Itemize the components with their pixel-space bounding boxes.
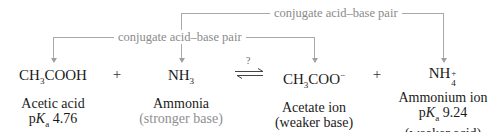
species-name: Acetic acid [12, 96, 94, 111]
arrow-down-icon [312, 58, 318, 63]
pka-k: K [426, 105, 435, 120]
species-role: (stronger base) [139, 111, 223, 126]
pka-k: K [36, 111, 45, 126]
species-acetate-ion: CH3COO− Acetate ion (weaker base) [275, 66, 353, 130]
species-name: Acetate ion [275, 100, 353, 115]
species-ammonia: NH3 Ammonia (stronger base) [139, 66, 223, 126]
plus-operator: + [373, 66, 381, 83]
formula-part: CH [19, 67, 40, 83]
top-bracket-right-drop [443, 13, 444, 60]
species-name: Ammonia [139, 96, 223, 111]
lower-bracket-label: conjugate acid–base pair [114, 30, 246, 44]
formula-nh3: NH3 [139, 66, 223, 90]
formula-part: COO [308, 71, 340, 87]
formula-scripts: +4 [450, 68, 457, 78]
formula-part: NH [168, 67, 190, 83]
equilibrium-arrows-svg [234, 58, 266, 82]
pka-value: pKa 4.76 [12, 111, 94, 132]
species-role: (weaker acid) [398, 126, 487, 132]
lower-bracket-left-drop [53, 37, 54, 60]
arrow-down-icon [179, 58, 185, 63]
plus-operator: + [113, 66, 121, 83]
formula-nh4-plus: NH+4 [398, 64, 487, 82]
pka-prefix: p [29, 111, 36, 126]
pka-value: pKa 9.24 [398, 105, 487, 126]
species-ammonium-ion: NH+4 Ammonium ion pKa 9.24 (weaker acid) [398, 64, 487, 132]
arrow-down-icon [51, 58, 57, 63]
species-role: (weaker base) [275, 115, 353, 130]
formula-part: COOH [44, 67, 87, 83]
top-bracket-label: conjugate acid–base pair [270, 6, 402, 20]
pka-number: 9.24 [439, 105, 467, 120]
arrow-down-icon [441, 58, 447, 63]
formula-ch3cooh: CH3COOH [12, 66, 94, 90]
pka-number: 4.76 [49, 111, 77, 126]
species-name: Ammonium ion [398, 90, 487, 105]
equilibrium-arrow-icon: ? [234, 58, 266, 82]
formula-subscript: 4 [451, 74, 456, 92]
formula-part: CH [283, 71, 304, 87]
formula-ch3coo-minus: CH3COO− [275, 66, 353, 94]
species-acetic-acid: CH3COOH Acetic acid pKa 4.76 (stronger a… [12, 66, 94, 132]
formula-subscript: 3 [190, 76, 195, 86]
lower-bracket-right-drop [314, 37, 315, 60]
formula-superscript: − [340, 70, 345, 80]
formula-part: NH [429, 65, 451, 81]
